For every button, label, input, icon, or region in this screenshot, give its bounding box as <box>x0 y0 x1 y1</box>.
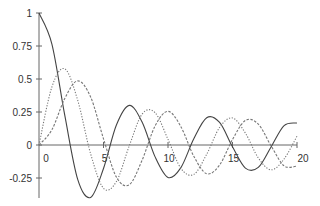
y-tick-label: -0.25 <box>9 173 32 184</box>
y-tick-label: 1 <box>26 8 32 19</box>
series-line <box>39 68 297 190</box>
x-tick-label: 0 <box>43 153 49 164</box>
y-tick-label: 0 <box>26 140 32 151</box>
y-tick-label: 0.25 <box>13 107 33 118</box>
line-chart: 10.750.50.250-0.2505101520 <box>0 0 320 206</box>
y-tick-label: 0.5 <box>18 74 32 85</box>
plot-series <box>39 13 297 198</box>
series-line <box>39 13 297 198</box>
x-tick-label: 15 <box>228 153 240 164</box>
x-tick-label: 10 <box>163 153 175 164</box>
y-tick-label: 0.75 <box>13 41 33 52</box>
axes: 10.750.50.250-0.2505101520 <box>9 8 309 199</box>
series-line <box>39 81 297 186</box>
x-tick-label: 20 <box>297 153 309 164</box>
